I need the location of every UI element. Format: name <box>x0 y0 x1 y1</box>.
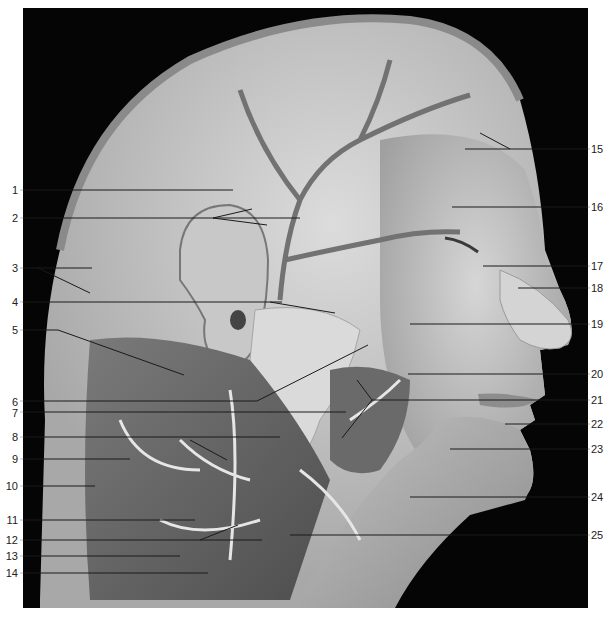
label-13: 13 <box>0 550 18 562</box>
label-11: 11 <box>0 514 18 526</box>
label-16: 16 <box>591 201 611 213</box>
label-9: 9 <box>0 453 18 465</box>
label-20: 20 <box>591 368 611 380</box>
label-4: 4 <box>0 296 18 308</box>
label-24: 24 <box>591 491 611 503</box>
label-25: 25 <box>591 529 611 541</box>
label-10: 10 <box>0 480 18 492</box>
label-5: 5 <box>0 324 18 336</box>
label-19: 19 <box>591 318 611 330</box>
dissection-photo <box>23 8 588 608</box>
label-2: 2 <box>0 212 18 224</box>
label-22: 22 <box>591 418 611 430</box>
label-7: 7 <box>0 407 18 419</box>
label-12: 12 <box>0 534 18 546</box>
label-8: 8 <box>0 431 18 443</box>
label-14: 14 <box>0 567 18 579</box>
label-18: 18 <box>591 282 611 294</box>
head-neck-dissection-illustration <box>23 8 588 608</box>
label-15: 15 <box>591 143 611 155</box>
ear-canal <box>230 310 246 330</box>
label-21: 21 <box>591 394 611 406</box>
label-17: 17 <box>591 260 611 272</box>
label-3: 3 <box>0 262 18 274</box>
label-23: 23 <box>591 443 611 455</box>
anatomy-figure: 1 2 3 4 5 6 7 8 9 10 11 12 13 14 15 16 1… <box>0 0 616 618</box>
label-1: 1 <box>0 184 18 196</box>
